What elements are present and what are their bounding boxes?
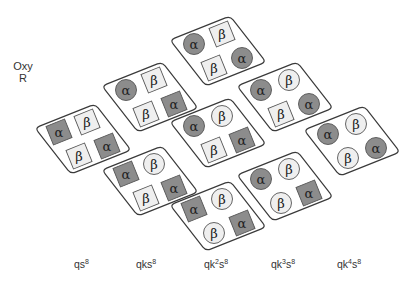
alpha-subunit-square: α [161, 91, 187, 117]
column-label-qs8: qs8 [74, 258, 89, 270]
beta-subunit-circle: β [279, 159, 300, 180]
beta-symbol: β [352, 117, 360, 132]
alpha-subunit-circle: α [251, 169, 272, 190]
beta-symbol: β [285, 162, 293, 177]
alpha-subunit-circle: α [251, 80, 272, 101]
alpha-symbol: α [122, 83, 131, 98]
alpha-symbol: α [257, 83, 266, 98]
alpha-symbol: α [257, 172, 266, 187]
tetramer-panel: αββα [239, 63, 331, 130]
alpha-subunit-square: α [229, 127, 255, 153]
alpha-symbol: α [305, 186, 314, 201]
alpha-symbol: α [372, 141, 381, 156]
tetramer-panel: αββα [37, 105, 129, 172]
beta-subunit-square: β [133, 101, 159, 127]
column-label-qks8: qks8 [136, 258, 156, 270]
alpha-subunit-square: α [113, 161, 139, 187]
beta-symbol: β [210, 143, 218, 158]
alpha-symbol: α [55, 125, 64, 140]
alpha-symbol: α [238, 51, 247, 66]
beta-subunit-square: β [133, 185, 159, 211]
tetramer-panel: αββα [172, 17, 264, 84]
alpha-symbol: α [190, 119, 199, 134]
alpha-symbol: α [122, 167, 131, 182]
column-label-qk3s8: qk3s8 [271, 258, 295, 270]
beta-symbol: β [210, 226, 218, 241]
alpha-subunit-square: α [229, 210, 255, 236]
beta-subunit-circle: β [144, 154, 165, 175]
beta-symbol: β [218, 27, 226, 42]
beta-symbol: β [142, 191, 150, 206]
alpha-subunit-square: α [94, 133, 120, 159]
beta-symbol: β [150, 73, 158, 88]
alpha-symbol: α [170, 97, 179, 112]
alpha-subunit-circle: α [184, 116, 205, 137]
beta-subunit-circle: β [279, 70, 300, 91]
column-label-qk4s8: qk4s8 [337, 258, 361, 270]
beta-subunit-circle: β [338, 148, 359, 169]
alpha-subunit-circle: α [116, 80, 137, 101]
beta-subunit-circle: β [212, 106, 233, 127]
beta-symbol: β [277, 196, 285, 211]
beta-subunit-circle: β [346, 114, 367, 135]
alpha-symbol: α [170, 181, 179, 196]
alpha-subunit-circle: α [366, 138, 387, 159]
beta-symbol: β [142, 107, 150, 122]
beta-subunit-square: β [268, 101, 294, 127]
tetramer-panel: αββα [306, 107, 398, 174]
alpha-subunit-square: α [181, 196, 207, 222]
beta-symbol: β [150, 157, 158, 172]
beta-subunit-square: β [74, 109, 100, 135]
alpha-subunit-circle: α [232, 48, 253, 69]
tetramer-diagram: αββααββααββααββααββααββααββααββααββα [0, 0, 405, 287]
beta-subunit-circle: β [212, 189, 233, 210]
beta-symbol: β [75, 149, 83, 164]
alpha-symbol: α [238, 133, 247, 148]
alpha-subunit-square: α [296, 180, 322, 206]
alpha-subunit-square: α [161, 175, 187, 201]
beta-symbol: β [218, 192, 226, 207]
beta-subunit-square: β [201, 55, 227, 81]
alpha-symbol: α [305, 97, 314, 112]
beta-symbol: β [285, 73, 293, 88]
beta-subunit-square: β [201, 137, 227, 163]
alpha-symbol: α [324, 127, 333, 142]
column-label-qk2s8: qk2s8 [204, 258, 228, 270]
alpha-symbol: α [190, 37, 199, 52]
beta-subunit-circle: β [204, 223, 225, 244]
tetramer-panel: αββα [104, 63, 196, 130]
alpha-subunit-circle: α [184, 34, 205, 55]
beta-symbol: β [344, 151, 352, 166]
beta-subunit-square: β [209, 21, 235, 47]
beta-symbol: β [277, 107, 285, 122]
alpha-symbol: α [190, 202, 199, 217]
beta-symbol: β [83, 115, 91, 130]
alpha-subunit-circle: α [318, 124, 339, 145]
beta-subunit-circle: β [271, 193, 292, 214]
alpha-subunit-circle: α [299, 94, 320, 115]
alpha-symbol: α [238, 216, 247, 231]
alpha-symbol: α [103, 139, 112, 154]
beta-symbol: β [210, 61, 218, 76]
beta-symbol: β [218, 109, 226, 124]
alpha-subunit-square: α [46, 119, 72, 145]
beta-subunit-square: β [66, 143, 92, 169]
beta-subunit-square: β [141, 67, 167, 93]
